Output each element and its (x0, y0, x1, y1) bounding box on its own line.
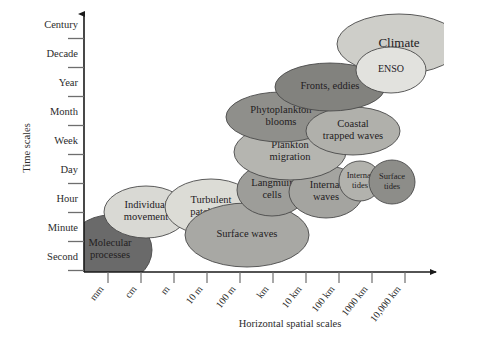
y-tick-label: Hour (56, 193, 78, 204)
x-tick-label: 10 m (183, 283, 204, 306)
y-axis-title: Time scales (21, 123, 32, 173)
bubble-enso: ENSO (356, 47, 426, 93)
x-tick-label: cm (122, 283, 138, 300)
x-tick-label: 10,000 km (368, 283, 403, 324)
bubble-label: Individualmovement (124, 199, 168, 222)
bubble-label: Fronts, eddies (301, 80, 360, 91)
y-tick-label: Year (59, 77, 79, 88)
bubble-coastal-trapped-waves: Coastaltrapped waves (306, 107, 400, 155)
y-tick-label: Decade (47, 48, 79, 59)
x-tick-label: m (158, 283, 172, 296)
x-axis-title: Horizontal spatial scales (239, 318, 342, 329)
scale-diagram-figure: MolecularprocessesIndividualmovementTurb… (0, 0, 481, 341)
x-tick-label: 10 km (279, 283, 303, 310)
bubble-label: Internalwaves (310, 179, 343, 202)
bubble-label: Planktonmigration (270, 139, 312, 162)
x-tick-label: 1000 km (339, 283, 370, 318)
bubble-label: Molecularprocesses (88, 237, 132, 260)
x-tick-label: 100 m (213, 283, 237, 310)
y-tick-label: Minute (48, 222, 79, 233)
x-tick-label: km (254, 283, 271, 300)
y-axis-ticks: SecondMinuteHourDayWeekMonthYearDecadeCe… (44, 19, 84, 271)
x-tick-label: 100 km (309, 283, 336, 314)
bubble-surface-tides: Surfacetides (369, 160, 415, 204)
bubble-label: ENSO (378, 63, 404, 74)
bubble-group: MolecularprocessesIndividualmovementTurb… (68, 14, 461, 285)
y-tick-label: Second (47, 251, 79, 262)
y-tick-label: Week (54, 135, 78, 146)
bubble-label: Surface waves (217, 228, 278, 239)
y-tick-label: Century (44, 19, 79, 30)
diagram-canvas: MolecularprocessesIndividualmovementTurb… (0, 0, 481, 341)
x-tick-label: mm (87, 283, 105, 302)
y-tick-label: Month (50, 106, 79, 117)
x-axis-ticks: mmcmm10 m100 mkm10 km100 km1000 km10,000… (87, 272, 405, 324)
y-tick-label: Day (61, 164, 79, 175)
